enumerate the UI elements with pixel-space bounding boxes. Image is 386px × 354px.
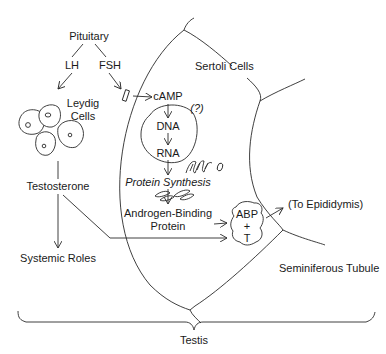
- testis-brace: [18, 311, 375, 330]
- fsh-receptor-icon: [122, 90, 129, 102]
- protein-synthesis-label: Protein Synthesis: [125, 176, 211, 188]
- dna-label: DNA: [156, 120, 180, 132]
- testis-hormone-diagram: Pituitary LH FSH Leydig Cells Testostero…: [0, 0, 386, 354]
- abp-t-label-2: +: [244, 220, 250, 232]
- to-epididymis-label: (To Epididymis): [288, 198, 363, 210]
- abp-t-label-1: ABP: [236, 208, 258, 220]
- leydig-cells-label-1: Leydig: [67, 97, 99, 109]
- lh-label: LH: [65, 59, 79, 71]
- testosterone-label: Testosterone: [27, 180, 90, 192]
- abp-label-2: Protein: [151, 220, 186, 232]
- rna-label: RNA: [156, 147, 180, 159]
- sertoli-cells-label: Sertoli Cells: [195, 60, 254, 72]
- systemic-roles-label: Systemic Roles: [20, 252, 96, 264]
- camp-label: cAMP: [153, 90, 182, 102]
- fsh-label: FSH: [99, 59, 121, 71]
- abp-t-label-3: T: [244, 232, 251, 244]
- seminiferous-tubule-label: Seminiferous Tubule: [279, 262, 379, 274]
- abp-label-1: Androgen-Binding: [124, 207, 212, 219]
- testis-label: Testis: [180, 334, 209, 346]
- leydig-cells-label-2: Cells: [71, 110, 96, 122]
- pituitary-label: Pituitary: [69, 30, 109, 42]
